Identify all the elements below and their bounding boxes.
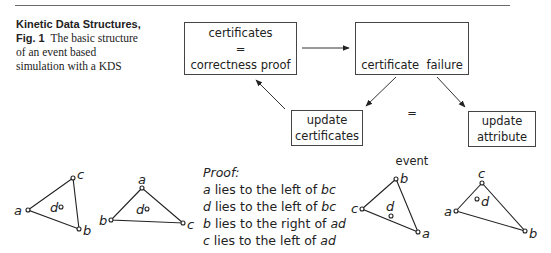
box-line: = [356,105,468,121]
t2-label-b: b [99,213,107,228]
t4-label-b: b [529,226,537,241]
proof-text: lies to the left of [210,233,320,248]
t1-label-c: c [77,167,84,182]
proof-line-4: c lies to the left of ad [203,232,346,249]
t4-label-a: a [444,204,452,219]
box-update-attribute: update attribute [468,111,536,147]
proof-object: ad [330,216,346,231]
box-line: = [185,41,296,57]
box-line: certificates [292,128,362,144]
box-line: update [469,113,535,129]
proof-subject: d [203,199,211,214]
proof-subject: c [203,233,210,248]
proof-title: Proof: [203,164,346,181]
triangle-2 [109,186,185,225]
proof-subject: a [203,182,211,197]
t2-label-c: c [187,217,194,232]
proof-object: ad [320,233,336,248]
t1-label-b: b [83,223,91,238]
t4-label-c: c [478,166,485,181]
t3-label-d: d [386,199,395,214]
proof-object: bc [321,182,336,197]
proof-line-2: d lies to the left of bc [203,198,346,215]
proof-text: lies to the left of [211,182,321,197]
proof-object: bc [321,199,336,214]
t1-label-a: a [14,203,22,218]
proof-line-3: b lies to the right of ad [203,215,346,232]
box-line: certificates [185,25,296,41]
t3-label-a: a [422,226,430,241]
box-line: correctness proof [185,57,296,73]
t4-label-d: d [481,194,490,209]
box-certificates: certificates = correctness proof [184,22,297,75]
box-line: certificate failure [356,57,468,73]
t3-label-c: c [351,201,358,216]
t1-label-d: d [50,200,59,215]
proof-text: lies to the left of [211,199,321,214]
box-update-certificates: update certificates [291,110,363,146]
proof-subject: b [203,216,211,231]
triangle-4 [454,181,527,233]
t2-label-a: a [138,172,146,187]
box-line: attribute [469,129,535,145]
arrow-update-certificates-to-certificates [256,80,285,109]
proof-block: Proof: a lies to the left of bc d lies t… [203,164,346,249]
box-certificate-failure: certificate failure = event [355,22,469,75]
box-line: event [356,153,468,169]
proof-text: lies to the right of [211,216,330,231]
box-line: update [292,112,362,128]
proof-line-1: a lies to the left of bc [203,181,346,198]
t2-label-d: d [136,202,145,217]
